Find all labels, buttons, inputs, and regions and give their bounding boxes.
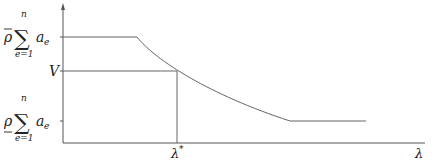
svg-text:e: e: [44, 37, 49, 47]
upper-bound-label: ρ ∑ n e=1 a e: [3, 9, 49, 59]
svg-text:n: n: [21, 93, 27, 103]
svg-text:ρ: ρ: [3, 113, 13, 129]
lambda-star-label: λ *: [170, 144, 184, 161]
svg-text:ρ: ρ: [3, 29, 13, 45]
y-axis-arrow-icon: [61, 3, 65, 10]
svg-text:*: *: [179, 144, 184, 154]
svg-text:∑: ∑: [14, 110, 30, 135]
x-axis-label: λ: [414, 146, 423, 161]
svg-text:e=1: e=1: [15, 49, 34, 59]
v-label: V: [49, 63, 61, 79]
svg-text:∑: ∑: [14, 26, 30, 51]
svg-text:e=1: e=1: [15, 133, 34, 143]
lower-bound-label: ρ ∑ n e=1 a e: [3, 93, 49, 143]
decreasing-curve: [137, 37, 290, 121]
svg-text:e: e: [44, 121, 49, 131]
svg-text:λ: λ: [170, 146, 179, 161]
diagram-canvas: ρ ∑ n e=1 a e V ρ ∑ n e=1 a e λ * λ: [0, 0, 439, 164]
svg-text:n: n: [21, 9, 27, 19]
